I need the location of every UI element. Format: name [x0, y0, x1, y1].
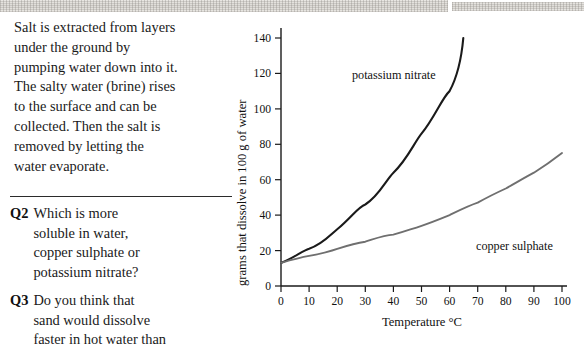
question-line: potassium nitrate? — [33, 263, 139, 283]
question-q2: Q2 Which is more soluble in water, coppe… — [10, 204, 232, 282]
y-tick-label: 140 — [254, 32, 272, 45]
x-tick-marks — [281, 286, 562, 292]
question-text: Which is more soluble in water, copper s… — [33, 204, 139, 282]
x-tick-label: 80 — [500, 295, 512, 308]
paragraph-line: collected. Then the salt is — [14, 117, 229, 137]
paragraph-line: removed by letting the — [14, 137, 229, 157]
y-tick-labels: 0 20 40 60 80 100 120 140 — [254, 32, 272, 293]
y-tick-label: 20 — [259, 245, 271, 258]
question-line: Which is more — [33, 204, 139, 224]
question-line: Do you think that — [33, 291, 166, 311]
series-label-potassium-nitrate: potassium nitrate — [352, 68, 436, 82]
paragraph-salt-extraction: Salt is extracted from layers under the … — [14, 18, 229, 176]
x-tick-label: 70 — [472, 295, 484, 308]
x-tick-label: 90 — [528, 295, 540, 308]
x-tick-label: 20 — [331, 295, 343, 308]
textbook-page: Salt is extracted from layers under the … — [0, 0, 584, 349]
paragraph-line: The salty water (brine) rises — [14, 77, 229, 97]
y-tick-label: 0 — [265, 280, 271, 293]
x-tick-label: 100 — [553, 295, 571, 308]
series-label-copper-sulphate: copper sulphate — [476, 239, 553, 253]
x-tick-label: 0 — [278, 295, 284, 308]
body-text-block: Salt is extracted from layers under the … — [14, 18, 229, 176]
question-line: sand would dissolve — [33, 311, 166, 331]
question-label: Q3 — [10, 291, 33, 311]
y-tick-label: 100 — [254, 103, 272, 116]
solubility-chart: 0 20 40 60 80 100 120 140 — [232, 18, 580, 338]
y-axis-label: grams that dissolve in 100 g of water — [235, 99, 249, 286]
question-line: copper sulphate or — [33, 243, 139, 263]
question-q3: Q3 Do you think that sand would dissolve… — [10, 291, 232, 349]
paragraph-line: under the ground by — [14, 38, 229, 58]
y-tick-label: 80 — [259, 138, 271, 151]
y-tick-label: 120 — [254, 67, 272, 80]
chart-svg: 0 20 40 60 80 100 120 140 — [232, 18, 580, 338]
question-text: Do you think that sand would dissolve fa… — [33, 291, 166, 349]
x-tick-label: 60 — [444, 295, 456, 308]
y-tick-label: 60 — [259, 174, 271, 187]
paragraph-line: to the surface and can be — [14, 97, 229, 117]
paragraph-line: Salt is extracted from layers — [14, 18, 229, 38]
x-tick-labels: 0 10 20 30 40 50 60 70 80 90 100 — [278, 295, 571, 308]
decorative-band-right — [452, 2, 584, 11]
divider-rule — [10, 196, 232, 197]
y-tick-label: 40 — [259, 209, 271, 222]
x-axis-label: Temperature °C — [382, 315, 462, 329]
question-line: soluble in water, — [33, 224, 139, 244]
x-tick-label: 50 — [416, 295, 428, 308]
questions-block: Q2 Which is more soluble in water, coppe… — [10, 196, 232, 349]
question-label: Q2 — [10, 204, 33, 224]
x-tick-label: 10 — [303, 295, 315, 308]
decorative-band-left — [0, 0, 448, 12]
x-tick-label: 40 — [388, 295, 400, 308]
y-tick-marks — [275, 38, 281, 286]
question-line: faster in hot water than — [33, 330, 166, 349]
paragraph-line: water evaporate. — [14, 157, 229, 177]
x-tick-label: 30 — [360, 295, 372, 308]
paragraph-line: pumping water down into it. — [14, 58, 229, 78]
question-spacer — [10, 284, 232, 291]
